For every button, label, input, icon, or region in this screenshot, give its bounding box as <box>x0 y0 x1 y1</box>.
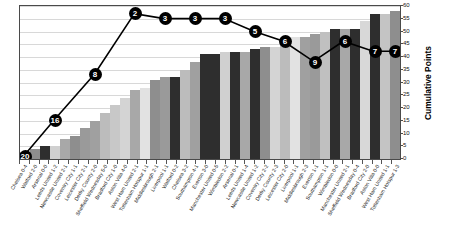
bar-slot <box>320 6 330 159</box>
bar-slot <box>140 6 150 159</box>
bar-slot <box>120 6 130 159</box>
bar <box>40 146 50 159</box>
x-axis-labels: Chelsea 0-4Watford 2-0Arsenal 0-0Leeds U… <box>19 164 401 248</box>
bar <box>120 98 130 159</box>
bar <box>280 39 290 159</box>
bar-slot <box>260 6 270 159</box>
bar <box>320 32 330 160</box>
bar <box>200 54 210 159</box>
bar-slot <box>350 6 360 159</box>
y-axis-tick-label: 0 <box>403 155 406 161</box>
bar-slot <box>340 6 350 159</box>
bar <box>30 149 40 159</box>
bar-slot <box>180 6 190 159</box>
bar <box>60 139 70 159</box>
y-axis-title: Cumulative Points <box>421 5 435 160</box>
y-axis-tick-mark <box>400 5 403 6</box>
bar <box>160 77 170 159</box>
y-axis-tick-label: 40 <box>403 53 410 59</box>
bar <box>210 54 220 159</box>
bar <box>80 128 90 159</box>
bar <box>150 80 160 159</box>
bar-slot <box>80 6 90 159</box>
y-axis-right: 051015202530354045505560 <box>403 5 419 160</box>
y-axis-tick-mark <box>400 94 403 95</box>
bar <box>140 88 150 159</box>
bar-slot <box>170 6 180 159</box>
y-axis-tick-label: 5 <box>403 142 406 148</box>
bar <box>250 49 260 159</box>
y-axis-tick-label: 10 <box>403 130 410 136</box>
chart-container: 201682333569677 051015202530354045505560… <box>0 0 452 248</box>
bar-slot <box>370 6 380 159</box>
bar <box>180 70 190 159</box>
y-axis-tick-label: 60 <box>403 2 410 8</box>
bar-slot <box>250 6 260 159</box>
bar <box>290 37 300 159</box>
bar-slot <box>190 6 200 159</box>
bar-slot <box>380 6 390 159</box>
bar-slot <box>310 6 320 159</box>
y-axis-tick-label: 45 <box>403 40 410 46</box>
y-axis-tick-label: 25 <box>403 91 410 97</box>
bar <box>130 90 140 159</box>
bar-slot <box>210 6 220 159</box>
y-axis-tick-mark <box>400 31 403 32</box>
bar <box>310 34 320 159</box>
bar <box>240 52 250 159</box>
bar-slot <box>30 6 40 159</box>
bar-slot <box>90 6 100 159</box>
bar-slot <box>50 6 60 159</box>
bar-slot <box>300 6 310 159</box>
bar <box>380 14 390 159</box>
bar <box>70 136 80 159</box>
y-axis-tick-mark <box>400 43 403 44</box>
y-axis-tick-label: 30 <box>403 79 410 85</box>
bar-slot <box>20 6 30 159</box>
bar <box>360 21 370 159</box>
bar-slot <box>40 6 50 159</box>
bar <box>20 156 30 159</box>
bar-slot <box>110 6 120 159</box>
bar <box>190 62 200 159</box>
y-axis-tick-mark <box>400 18 403 19</box>
bar <box>230 52 240 159</box>
bar-slot <box>130 6 140 159</box>
bar-slot <box>270 6 280 159</box>
y-axis-tick-mark <box>400 145 403 146</box>
y-axis-tick-mark <box>400 107 403 108</box>
bar <box>50 146 60 159</box>
bar <box>370 14 380 159</box>
y-axis-tick-mark <box>400 69 403 70</box>
bar-slot <box>240 6 250 159</box>
bar-slot <box>230 6 240 159</box>
bar-slot <box>330 6 340 159</box>
plot-area: 201682333569677 <box>19 5 401 160</box>
y-axis-tick-label: 35 <box>403 66 410 72</box>
bar-slot <box>70 6 80 159</box>
bar <box>300 37 310 159</box>
y-axis-tick-mark <box>400 158 403 159</box>
bar-slot <box>280 6 290 159</box>
bar-slot <box>150 6 160 159</box>
bar <box>170 77 180 159</box>
bar <box>270 47 280 159</box>
bar-slot <box>360 6 370 159</box>
x-label-slot: Tottenham Hotspur 1-3 <box>391 164 401 248</box>
bar <box>260 47 270 159</box>
bar <box>220 52 230 159</box>
y-axis-tick-label: 55 <box>403 15 410 21</box>
y-axis-tick-mark <box>400 82 403 83</box>
bar <box>100 113 110 159</box>
y-axis-tick-label: 15 <box>403 117 410 123</box>
y-axis-tick-label: 20 <box>403 104 410 110</box>
y-axis-tick-label: 50 <box>403 28 410 34</box>
bar <box>350 29 360 159</box>
bar <box>330 29 340 159</box>
bar-series <box>20 6 400 159</box>
bar-slot <box>160 6 170 159</box>
y-axis-title-label: Cumulative Points <box>423 45 433 119</box>
bar-slot <box>290 6 300 159</box>
bar-slot <box>390 6 400 159</box>
bar <box>110 105 120 159</box>
